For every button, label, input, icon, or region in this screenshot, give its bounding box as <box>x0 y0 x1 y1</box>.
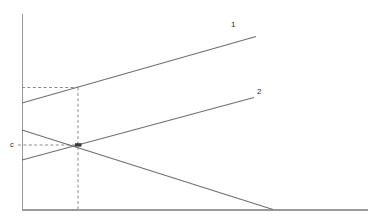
y-axis-value-label-c: c <box>10 141 14 149</box>
chart-container: 1 2 c <box>0 0 376 224</box>
equilibrium-marker <box>75 143 82 146</box>
series-label-2: 2 <box>257 88 261 96</box>
series-line-downward <box>22 130 273 210</box>
series-line-1 <box>22 37 256 104</box>
series-line-2 <box>22 98 254 161</box>
series-label-1: 1 <box>231 21 235 29</box>
chart-plot-area <box>0 0 376 224</box>
